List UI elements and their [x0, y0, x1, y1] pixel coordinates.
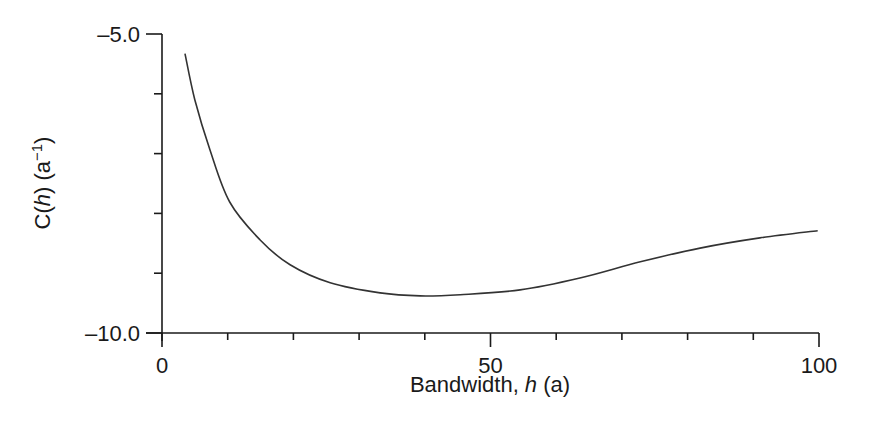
- y-tick-label: –10.0: [85, 321, 140, 346]
- data-line-c-h: [185, 54, 818, 296]
- x-tick-label: 100: [801, 353, 838, 378]
- y-tick-label: –5.0: [97, 22, 140, 47]
- tick-labels: –5.0–10.0050100: [85, 22, 837, 378]
- chart-canvas: –5.0–10.0050100 Bandwidth, h (a) C(h) (a…: [0, 0, 876, 446]
- x-tick-label: 0: [156, 353, 168, 378]
- x-axis-label: Bandwidth, h (a): [410, 372, 570, 397]
- axes: [146, 34, 819, 347]
- y-axis-label: C(h) (a−1): [28, 137, 55, 230]
